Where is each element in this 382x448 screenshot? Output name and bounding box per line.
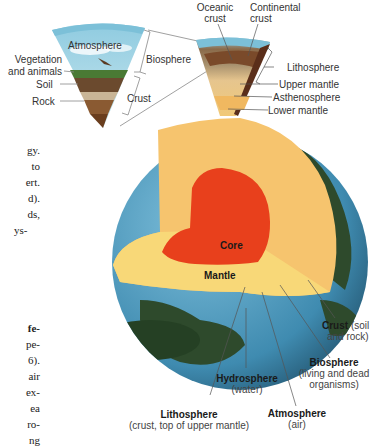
crust-soil-rock-label: Crust (soil and rock) — [322, 320, 369, 342]
upper-mantle-label: Upper mantle — [279, 79, 339, 90]
atmosphere-label: Atmosphere — [68, 40, 122, 51]
globe — [100, 118, 368, 390]
continental-crust-label: Continental crust — [250, 2, 301, 24]
lower-mantle-label: Lower mantle — [268, 105, 328, 116]
body-text-lower: fe- pe- 6). air ex- ea ro- ng — [0, 320, 40, 448]
core-label: Core — [220, 240, 243, 251]
mantle-label: Mantle — [204, 270, 236, 281]
asthenosphere-label: Asthenosphere — [273, 92, 340, 103]
soil-label: Soil — [36, 79, 53, 90]
rock-label: Rock — [32, 96, 55, 107]
and-animals-label: and animals — [0, 66, 62, 77]
oceanic-crust-label: Oceanic crust — [193, 2, 237, 24]
vegetation-label: Vegetation — [2, 54, 62, 65]
lithosphere-wedge-label: Lithosphere — [287, 62, 339, 73]
hydrosphere-label: Hydrosphere (water) — [212, 373, 282, 395]
crust-bracket-label: Crust — [127, 93, 151, 104]
atmosphere-globe-label: Atmosphere (air) — [264, 408, 330, 430]
body-text-upper: gy. to ert. d). ds, ys- — [0, 142, 40, 238]
lithosphere-globe-label: Lithosphere (crust, top of upper mantle) — [120, 409, 258, 431]
biosphere-globe-label: Biosphere (living and dead organisms) — [286, 357, 382, 390]
biosphere-bracket-label: Biosphere — [146, 54, 191, 65]
